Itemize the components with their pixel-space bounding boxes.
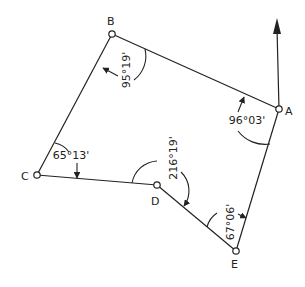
angle-arc-a [238,131,270,144]
point-d [154,182,160,188]
angle-label-a: 96°03' [229,114,266,127]
point-e [233,248,239,254]
edge-a-b [112,34,279,109]
point-label-a: A [285,105,293,118]
angle-arc-e [207,213,217,227]
point-label-d: D [151,195,159,208]
traverse-diagram: A B C D E 95°19' 96°03' 65°13' 216°19' 6… [0,0,305,287]
angle-arrow-b [103,68,118,76]
traverse-edges [37,34,279,251]
point-a [276,106,282,112]
angle-arrow-d [181,172,189,206]
angle-label-c: 65°13' [53,149,90,162]
angle-arc-b [134,49,146,80]
north-arrow-icon [273,18,281,109]
point-c [34,172,40,178]
edge-c-d [37,175,157,185]
point-b [109,31,115,37]
angle-label-b: 95°19' [120,52,133,89]
angle-arcs [55,49,270,227]
angle-label-d: 216°19' [167,136,180,180]
angle-arrow-a [238,97,244,112]
angle-label-e: 67°06' [224,204,237,241]
point-label-b: B [107,15,115,28]
point-label-e: E [231,258,238,271]
angle-arrow-e [238,214,246,218]
point-label-c: C [21,170,29,183]
edge-e-a [236,109,279,251]
angle-arc-d [132,161,157,183]
